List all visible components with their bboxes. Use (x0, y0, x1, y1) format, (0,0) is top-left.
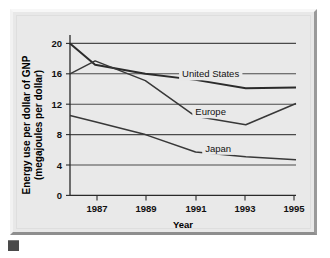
figure-corner-marker (8, 240, 19, 251)
y-axis-title: Energy use per dollar of GNP (megajoules… (21, 55, 44, 194)
x-tick-label-1995: 1995 (283, 203, 305, 214)
y-tick-labels: 20 16 12 8 4 0 (51, 38, 62, 201)
series-label-europe: Europe (195, 106, 226, 117)
y-axis-title-line2: (megajoules per dollar) (33, 70, 44, 180)
x-tick-labels: 1987 1989 1991 1993 1995 (86, 203, 305, 214)
series-label-japan: Japan (205, 143, 231, 154)
y-axis-title-line1: Energy use per dollar of GNP (21, 55, 32, 194)
y-tick-label-8: 8 (57, 129, 62, 140)
x-tick-label-1989: 1989 (135, 203, 156, 214)
x-tick-label-1991: 1991 (185, 203, 207, 214)
series-line-japan (70, 116, 296, 160)
x-axis-title: Year (173, 219, 193, 230)
y-tick-label-20: 20 (51, 38, 62, 49)
y-tick-label-16: 16 (51, 68, 62, 79)
x-tick-label-1987: 1987 (86, 203, 107, 214)
line-chart-svg: Energy use per dollar of GNP (megajoules… (0, 0, 330, 258)
y-tick-label-0: 0 (57, 190, 62, 201)
gridlines (70, 43, 296, 165)
series-line-united-states (70, 43, 296, 88)
y-tick-label-12: 12 (51, 99, 62, 110)
series-label-united-states: United States (182, 68, 239, 79)
x-tick-label-1993: 1993 (234, 203, 255, 214)
series-group (70, 43, 296, 159)
chart-figure: Energy use per dollar of GNP (megajoules… (0, 0, 330, 258)
y-tick-label-4: 4 (57, 160, 63, 171)
